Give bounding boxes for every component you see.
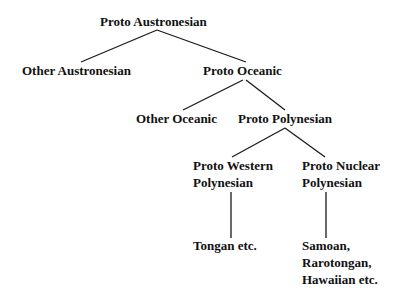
node-line: Proto Western: [193, 157, 273, 174]
node-line: Polynesian: [302, 174, 380, 191]
node-other-oceanic: Other Oceanic: [136, 110, 217, 127]
node-line: Rarotongan,: [302, 254, 378, 271]
node-proto-oceanic: Proto Oceanic: [203, 62, 282, 79]
edge-proto-austronesian-proto-oceanic: [157, 30, 246, 62]
node-samoan-group: Samoan, Rarotongan, Hawaiian etc.: [302, 237, 378, 288]
node-proto-polynesian: Proto Polynesian: [238, 110, 332, 127]
node-proto-austronesian: Proto Austronesian: [100, 13, 207, 30]
node-proto-western-polynesian: Proto Western Polynesian: [193, 157, 273, 191]
node-proto-nuclear-polynesian: Proto Nuclear Polynesian: [302, 157, 380, 191]
edge-proto-polynesian-proto-nuclear: [285, 128, 325, 157]
node-other-austronesian: Other Austronesian: [22, 62, 131, 79]
edge-proto-polynesian-proto-western: [232, 128, 285, 157]
edge-proto-oceanic-proto-polynesian: [246, 80, 285, 110]
node-line: Samoan,: [302, 237, 378, 254]
edge-proto-austronesian-other-austronesian: [81, 30, 157, 62]
edge-proto-oceanic-other-oceanic: [183, 80, 243, 110]
node-line: Polynesian: [193, 174, 273, 191]
node-tongan: Tongan etc.: [193, 237, 257, 254]
node-line: Hawaiian etc.: [302, 271, 378, 288]
node-line: Proto Nuclear: [302, 157, 380, 174]
